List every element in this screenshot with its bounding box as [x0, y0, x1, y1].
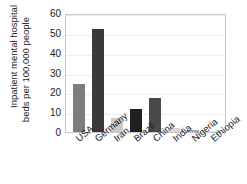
y-axis-title-line-2: beds per 100,000 people	[21, 17, 31, 122]
bar	[73, 84, 85, 132]
y-tick-label: 40	[39, 49, 61, 59]
y-axis-title: Inpatient mental hospital beds per 100,0…	[0, 0, 40, 140]
y-tick-label: 10	[39, 108, 61, 118]
y-tick-label: 50	[39, 29, 61, 39]
x-axis-tick-labels: USAGermanyIranBrazilChinaIndiaNigeriaEth…	[65, 133, 226, 184]
y-tick-label: 0	[39, 128, 61, 138]
y-tick-label: 30	[39, 69, 61, 79]
bar	[92, 29, 104, 132]
y-axis-tick-labels: 6050403020100	[37, 0, 61, 184]
y-axis-title-line-1: Inpatient mental hospital	[9, 5, 19, 108]
y-tick-label: 20	[39, 88, 61, 98]
plot-area	[65, 14, 226, 133]
bar-chart: Inpatient mental hospital beds per 100,0…	[0, 0, 247, 184]
bar-series	[66, 15, 225, 132]
y-tick-label: 60	[39, 9, 61, 19]
